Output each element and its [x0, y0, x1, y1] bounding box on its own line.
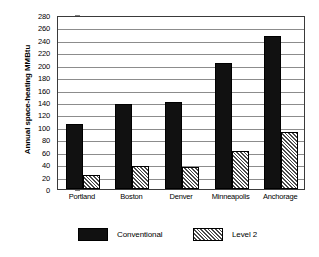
- bar-denver-level-2: [182, 167, 199, 189]
- legend-swatch-level-2: [193, 228, 223, 241]
- bar-anchorage-conventional: [264, 36, 281, 189]
- chart-legend: ConventionalLevel 2: [0, 228, 319, 250]
- bar-boston-level-2: [132, 166, 149, 189]
- y-tick-label: 0: [24, 186, 50, 195]
- y-tick-label: 80: [24, 136, 50, 145]
- y-tick-label: 160: [24, 86, 50, 95]
- plot-area: [57, 16, 305, 190]
- bar-group: [264, 17, 298, 189]
- legend-item-conventional: Conventional: [78, 228, 163, 241]
- x-tick-label: Denver: [156, 192, 206, 201]
- bar-group: [115, 17, 149, 189]
- y-tick-label: 200: [24, 61, 50, 70]
- bars-layer: [58, 17, 304, 189]
- x-tick-label: Anchorage: [255, 192, 305, 201]
- x-tick-label: Minneapolis: [206, 192, 256, 201]
- x-axis-labels: PortlandBostonDenverMinneapolisAnchorage: [57, 192, 305, 206]
- bar-minneapolis-conventional: [215, 63, 232, 189]
- y-tick-label: 180: [24, 74, 50, 83]
- y-axis-ticks: 020406080100120140160180200220240260280: [24, 16, 50, 190]
- y-tick-label: 260: [24, 24, 50, 33]
- y-tick-label: 240: [24, 36, 50, 45]
- y-tick-label: 280: [24, 12, 50, 21]
- bar-group: [215, 17, 249, 189]
- bar-anchorage-level-2: [281, 132, 298, 189]
- legend-swatch-conventional: [78, 228, 108, 241]
- bar-minneapolis-level-2: [232, 151, 249, 189]
- y-tick-label: 60: [24, 148, 50, 157]
- bar-denver-conventional: [165, 102, 182, 189]
- x-tick-label: Portland: [57, 192, 107, 201]
- bar-chart: Annual space-heating MMBtu 0204060801001…: [0, 0, 319, 257]
- legend-item-level-2: Level 2: [193, 228, 257, 241]
- legend-label: Level 2: [232, 230, 257, 239]
- bar-portland-level-2: [83, 175, 100, 189]
- y-tick-label: 40: [24, 161, 50, 170]
- y-tick-label: 120: [24, 111, 50, 120]
- x-tick-label: Boston: [107, 192, 157, 201]
- y-tick-label: 20: [24, 173, 50, 182]
- bar-portland-conventional: [66, 124, 83, 189]
- y-tick-label: 100: [24, 123, 50, 132]
- bar-group: [165, 17, 199, 189]
- legend-label: Conventional: [117, 230, 163, 239]
- bar-group: [66, 17, 100, 189]
- y-tick-label: 140: [24, 99, 50, 108]
- y-tick-label: 220: [24, 49, 50, 58]
- bar-boston-conventional: [115, 104, 132, 189]
